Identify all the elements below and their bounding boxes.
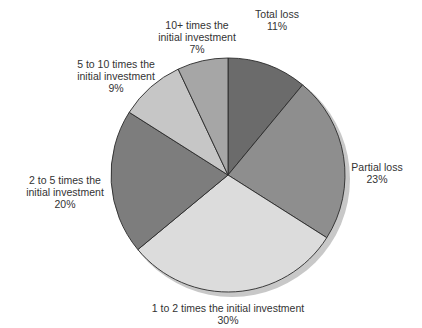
slice-percent: 30% (152, 314, 304, 326)
slice-label: Partial loss23% (351, 161, 402, 185)
slice-label-text: initial investment (158, 31, 236, 43)
slice-label: 10+ times theinitial investment7% (158, 19, 236, 55)
slice-label-text: 2 to 5 times the (26, 174, 104, 186)
slice-percent: 9% (77, 82, 155, 94)
slice-label: 2 to 5 times theinitial investment20% (26, 174, 104, 210)
slice-percent: 11% (255, 20, 299, 32)
slice-label-text: Total loss (255, 8, 299, 20)
slice-label: 5 to 10 times theinitial investment9% (77, 58, 155, 94)
slice-percent: 7% (158, 43, 236, 55)
slice-label: 1 to 2 times the initial investment30% (152, 302, 304, 326)
slice-label: Total loss11% (255, 8, 299, 32)
slice-label-text: 5 to 10 times the (77, 58, 155, 70)
slice-percent: 23% (351, 173, 402, 185)
slice-label-text: 1 to 2 times the initial investment (152, 302, 304, 314)
slice-label-text: initial investment (77, 70, 155, 82)
slice-label-text: initial investment (26, 186, 104, 198)
slice-label-text: 10+ times the (158, 19, 236, 31)
slice-label-text: Partial loss (351, 161, 402, 173)
slice-percent: 20% (26, 198, 104, 210)
